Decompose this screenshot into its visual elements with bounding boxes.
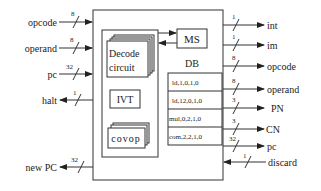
left-signal-operand-label: operand	[25, 43, 57, 54]
right-signal-operand-label: operand	[267, 84, 299, 95]
db-row: ld,1,0,1,0	[172, 79, 199, 87]
right-signal-pn-width: 3	[232, 96, 236, 104]
db-table: ld,1,0,1,0 ld,12,0,1,0 mul,0,2,1,0 com,2…	[168, 73, 222, 145]
right-signal-im-label: im	[267, 40, 278, 51]
db-title: DB	[185, 58, 199, 69]
right-signal-im-width: 1	[232, 33, 236, 41]
left-signal-halt-width: 1	[73, 89, 77, 97]
left-signal-newpc-width: 32	[71, 156, 79, 164]
right-signal-cn-width: 3	[232, 117, 236, 125]
right-signal-pn-label: PN	[271, 103, 284, 114]
right-signal-opcode-width: 8	[232, 54, 236, 62]
right-signal-pc-label: pc	[267, 141, 277, 152]
left-signal-halt-label: halt	[42, 95, 57, 106]
left-signal-opcode-width: 8	[71, 10, 75, 18]
ivt-label: IVT	[117, 94, 134, 105]
decode-label-1: Decode	[109, 48, 140, 59]
right-signal-discard-label: discard	[268, 157, 297, 168]
right-signal-pc-width: 32	[229, 135, 237, 143]
diagram-canvas: Decode circuit MS IVT covop DB ld,1,0,1,…	[0, 0, 321, 191]
left-signal-pc-width: 32	[66, 63, 74, 71]
left-signal-opcode-label: opcode	[28, 17, 57, 28]
left-signal-newpc-label: new PC	[26, 162, 58, 173]
covop-label: covop	[111, 133, 140, 144]
ms-label: MS	[184, 33, 200, 45]
right-signal-operand-width: 8	[232, 77, 236, 85]
right-signal-int-width: 1	[232, 13, 236, 21]
right-signal-int-label: int	[267, 20, 278, 31]
db-row: com,2,2,1,0	[169, 133, 203, 141]
db-row: ld,12,0,1,0	[172, 97, 202, 105]
db-row: mul,0,2,1,0	[169, 115, 201, 123]
covop-stack: covop	[108, 123, 149, 148]
right-signal-cn-label: CN	[266, 124, 280, 135]
decode-circuit-stack: Decode circuit	[107, 35, 154, 77]
decode-label-2: circuit	[109, 62, 135, 73]
left-signal-pc-label: pc	[48, 69, 58, 80]
right-signal-discard-width: 1	[243, 152, 247, 160]
right-signal-opcode-label: opcode	[267, 61, 296, 72]
left-signal-operand-width: 8	[70, 36, 74, 44]
